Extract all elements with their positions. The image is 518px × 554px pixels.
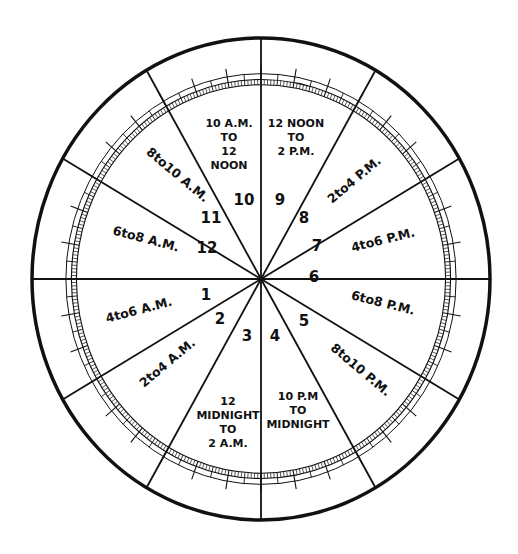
degree-tick	[408, 159, 412, 162]
house-label-h9-line: TO	[288, 131, 305, 144]
degree-tick	[333, 458, 335, 463]
degree-tick	[312, 466, 313, 471]
degree-tick	[418, 382, 422, 385]
degree-tick	[202, 464, 204, 469]
degree-tick	[72, 258, 77, 259]
degree-tick	[76, 319, 81, 320]
house-label-h10-line: 10 A.M.	[205, 117, 252, 130]
degree-tick	[104, 167, 108, 170]
degree-tick	[192, 79, 198, 97]
degree-tick	[293, 470, 296, 489]
degree-tick	[398, 409, 402, 413]
degree-tick	[400, 406, 404, 409]
house-label-h10-line: TO	[221, 131, 238, 144]
degree-tick	[422, 373, 426, 376]
degree-tick	[86, 355, 91, 357]
degree-tick	[336, 456, 338, 461]
degree-tick	[430, 358, 435, 360]
degree-tick	[350, 449, 352, 454]
degree-tick	[129, 135, 132, 139]
degree-tick	[438, 224, 443, 225]
degree-tick	[199, 90, 201, 95]
degree-tick	[327, 93, 329, 98]
degree-tick	[238, 81, 239, 86]
degree-tick	[434, 206, 451, 213]
degree-tick	[102, 385, 106, 388]
degree-tick	[178, 454, 180, 459]
degree-tick	[218, 85, 219, 90]
degree-tick	[86, 201, 91, 203]
degree-tick	[61, 242, 79, 245]
degree-tick	[72, 299, 77, 300]
degree-tick	[147, 434, 150, 438]
degree-tick	[327, 460, 329, 465]
degree-tick	[389, 135, 392, 139]
degree-tick	[74, 309, 79, 310]
degree-tick	[238, 472, 239, 477]
house-label-h10-line: NOON	[210, 159, 247, 172]
degree-tick	[442, 241, 447, 242]
degree-tick	[445, 258, 450, 259]
degree-tick	[190, 94, 192, 99]
house-label-h2: 2to4 A.M.	[136, 335, 198, 390]
house-label-h5: 8to10 P.M.	[328, 340, 394, 399]
degree-tick	[193, 460, 195, 465]
degree-tick	[356, 108, 359, 113]
degree-tick	[155, 440, 158, 444]
degree-tick	[120, 409, 124, 413]
degree-tick	[296, 470, 297, 475]
degree-tick	[81, 339, 86, 341]
degree-tick	[369, 118, 372, 122]
degree-tick	[187, 458, 189, 463]
degree-tick	[91, 364, 96, 366]
degree-tick	[348, 451, 350, 456]
degree-tick	[235, 471, 236, 476]
degree-tick	[372, 120, 375, 124]
degree-tick	[394, 140, 398, 144]
degree-tick	[74, 248, 79, 249]
degree-tick	[377, 124, 380, 128]
degree-tick	[80, 336, 85, 338]
degree-tick	[147, 120, 150, 124]
degree-tick	[94, 370, 98, 372]
house-label-h4-line: TO	[290, 404, 307, 417]
degree-tick	[73, 255, 78, 256]
degree-tick	[404, 153, 408, 156]
degree-tick	[418, 173, 422, 176]
degree-tick	[431, 201, 436, 203]
degree-tick	[318, 89, 320, 94]
degree-tick	[120, 145, 124, 149]
degree-tick	[85, 352, 90, 354]
degree-tick	[280, 81, 281, 86]
degree-tick	[432, 352, 437, 354]
degree-tick	[438, 336, 443, 338]
degree-tick	[76, 323, 81, 324]
degree-tick	[362, 112, 365, 116]
degree-tick	[215, 467, 216, 472]
degree-tick	[398, 145, 402, 149]
degree-tick	[192, 462, 198, 480]
degree-tick	[315, 465, 316, 470]
degree-tick	[125, 140, 129, 144]
degree-tick	[438, 221, 443, 223]
degree-tick	[206, 88, 207, 93]
degree-tick	[73, 303, 78, 304]
house-dividers	[32, 38, 490, 520]
house-number-3: 3	[242, 327, 252, 345]
degree-tick	[218, 468, 219, 473]
degree-tick	[396, 143, 400, 147]
degree-tick	[408, 396, 412, 399]
degree-tick	[444, 306, 449, 307]
degree-tick	[150, 436, 153, 440]
degree-tick	[75, 241, 80, 242]
degree-tick	[61, 313, 79, 316]
degree-tick	[100, 173, 104, 176]
house-label-h3-line: 12	[220, 395, 235, 408]
degree-tick	[142, 430, 145, 434]
degree-tick	[114, 153, 118, 156]
house-number-7: 7	[312, 237, 322, 255]
degree-tick	[108, 393, 112, 396]
house-number-1: 1	[201, 286, 211, 304]
degree-tick	[175, 101, 177, 106]
degree-tick	[206, 465, 207, 470]
